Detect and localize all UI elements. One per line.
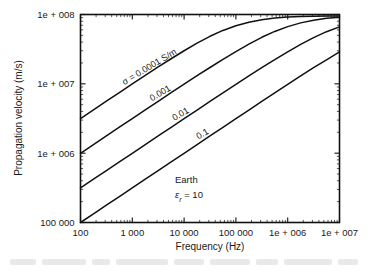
curve-label-2: 0.01	[170, 105, 190, 123]
earth-annotation: Earth	[175, 174, 198, 185]
x-tick-label: 1e + 007	[321, 227, 358, 238]
x-tick-labels: 1001 00010 000100 0001e + 0061e + 007	[73, 227, 359, 238]
permittivity-annotation: εr = 10	[175, 189, 203, 203]
y-tick-label: 1e + 008	[37, 9, 74, 20]
figure-container: 1001 00010 000100 0001e + 0061e + 007 10…	[0, 0, 371, 276]
x-tick-label: 1 000	[120, 227, 144, 238]
curve-sigma-1	[81, 17, 340, 153]
y-tick-label: 1e + 007	[37, 78, 74, 89]
x-tick-label: 10 000	[170, 227, 199, 238]
curve-label-3: 0.1	[194, 126, 210, 141]
y-tick-labels: 100 0001e + 0061e + 0071e + 008	[37, 9, 74, 228]
curve-label-0: σ = 0.0001 S/m	[120, 47, 178, 87]
curve-sigma-3	[81, 52, 340, 223]
x-axis-title: Frequency (Hz)	[176, 241, 245, 252]
data-curves	[81, 16, 340, 222]
propagation-velocity-chart: 1001 00010 000100 0001e + 0061e + 007 10…	[0, 0, 371, 276]
plot-frame	[81, 15, 340, 223]
curve-sigma-2	[81, 27, 340, 188]
curve-labels: σ = 0.0001 S/m0.0010.010.1	[120, 47, 210, 142]
y-tick-label: 100 000	[40, 217, 74, 228]
axis-ticks	[81, 15, 340, 223]
x-tick-label: 100 000	[219, 227, 253, 238]
x-tick-label: 1e + 006	[269, 227, 306, 238]
y-tick-label: 1e + 006	[37, 148, 74, 159]
permittivity-symbol: εr = 10	[175, 189, 203, 203]
y-axis-title: Propagation velocity (m/s)	[13, 60, 24, 176]
x-tick-label: 100	[73, 227, 89, 238]
page-caption-artifact	[8, 256, 360, 268]
